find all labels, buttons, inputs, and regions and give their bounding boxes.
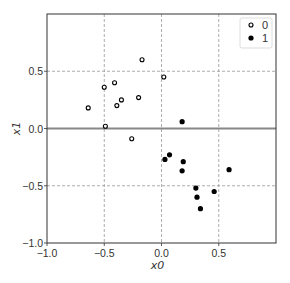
- legend-filled-circle-icon: [248, 35, 253, 40]
- data-point-class-1: [180, 168, 185, 173]
- data-point-class-0: [137, 96, 141, 100]
- data-point-class-1: [226, 167, 231, 172]
- data-point-class-0: [86, 106, 90, 110]
- legend-label: 1: [262, 32, 268, 44]
- data-point-class-0: [162, 75, 166, 79]
- data-point-class-1: [167, 152, 172, 157]
- y-tick-label: −1.0: [22, 237, 43, 249]
- y-tick-label: 0.0: [28, 123, 43, 135]
- y-tick-label: 0.5: [28, 65, 43, 77]
- y-axis-label: x1: [10, 122, 23, 137]
- y-axis-ticks: −1.0−0.50.00.5: [22, 65, 47, 249]
- y-tick-label: −0.5: [22, 180, 43, 192]
- data-point-class-0: [113, 81, 117, 85]
- data-point-class-1: [194, 195, 199, 200]
- legend-label: 0: [262, 19, 268, 31]
- data-point-class-1: [180, 119, 185, 124]
- data-point-class-1: [193, 185, 198, 190]
- scatter-chart: −1.0−0.50.00.5 −1.0−0.50.00.5 x0 x1 01: [0, 0, 290, 283]
- x-tick-label: 0.5: [211, 247, 226, 259]
- data-point-class-0: [130, 137, 134, 141]
- data-point-class-0: [103, 124, 107, 128]
- data-point-class-0: [140, 58, 144, 62]
- legend-open-circle-icon: [249, 23, 253, 27]
- x-tick-label: −0.5: [94, 247, 115, 259]
- x-axis-ticks: −1.0−0.50.00.5: [37, 243, 227, 259]
- data-point-class-0: [102, 85, 106, 89]
- data-point-class-1: [198, 206, 203, 211]
- x-axis-label: x0: [150, 259, 165, 272]
- data-point-class-1: [162, 157, 167, 162]
- data-point-class-1: [212, 189, 217, 194]
- data-point-class-0: [115, 104, 119, 108]
- data-points: [86, 58, 231, 211]
- data-point-class-0: [119, 98, 123, 102]
- x-tick-label: 0.0: [154, 247, 169, 259]
- data-point-class-1: [181, 159, 186, 164]
- legend: 01: [240, 18, 272, 48]
